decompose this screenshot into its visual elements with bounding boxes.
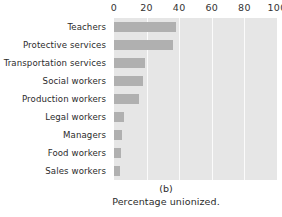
bar-sales-workers bbox=[114, 166, 120, 176]
bar-row bbox=[114, 144, 277, 162]
category-label-legal-workers: Legal workers bbox=[0, 108, 110, 126]
category-label-social-workers: Social workers bbox=[0, 72, 110, 90]
bar-food-workers bbox=[114, 148, 121, 158]
x-tick-label-80: 80 bbox=[238, 2, 251, 14]
category-label-production-workers: Production workers bbox=[0, 90, 110, 108]
panel-letter: (b) bbox=[0, 182, 282, 195]
x-tick-label-20: 20 bbox=[140, 2, 153, 14]
bar-transportation-services bbox=[114, 58, 145, 68]
bar-managers bbox=[114, 130, 122, 140]
x-tick-label-100: 100 bbox=[267, 2, 282, 14]
category-label-protective-services: Protective services bbox=[0, 36, 110, 54]
bar-row bbox=[114, 72, 277, 90]
bar-row bbox=[114, 36, 277, 54]
bar-social-workers bbox=[114, 76, 143, 86]
category-axis-labels: Teachers Protective services Transportat… bbox=[0, 18, 110, 180]
category-label-sales-workers: Sales workers bbox=[0, 162, 110, 180]
x-axis-tick-labels: 0 20 40 60 80 100 bbox=[114, 2, 277, 16]
category-label-transportation-services: Transportation services bbox=[0, 54, 110, 72]
bar-production-workers bbox=[114, 94, 139, 104]
bar-row bbox=[114, 54, 277, 72]
category-label-managers: Managers bbox=[0, 126, 110, 144]
bar-row bbox=[114, 18, 277, 36]
bar-row bbox=[114, 108, 277, 126]
bar-row bbox=[114, 162, 277, 180]
bar-row bbox=[114, 126, 277, 144]
caption-text: Percentage unionized. bbox=[0, 195, 282, 209]
bar-legal-workers bbox=[114, 112, 124, 122]
bar-row bbox=[114, 90, 277, 108]
x-tick-label-0: 0 bbox=[111, 2, 117, 14]
bar-series bbox=[114, 18, 277, 180]
category-label-teachers: Teachers bbox=[0, 18, 110, 36]
x-tick-label-40: 40 bbox=[173, 2, 186, 14]
figure-caption: (b) Percentage unionized. bbox=[0, 182, 282, 209]
bar-teachers bbox=[114, 22, 176, 32]
plot-area bbox=[114, 18, 277, 180]
bar-chart-figure: 0 20 40 60 80 100 Teachers Protective se… bbox=[0, 0, 282, 217]
x-tick-label-60: 60 bbox=[205, 2, 218, 14]
bar-protective-services bbox=[114, 40, 173, 50]
category-label-food-workers: Food workers bbox=[0, 144, 110, 162]
